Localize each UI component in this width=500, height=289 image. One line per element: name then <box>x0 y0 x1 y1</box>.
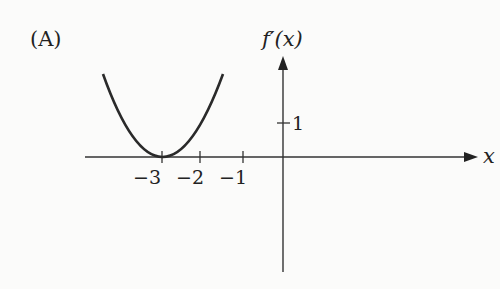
panel-label: (A) <box>30 27 62 51</box>
x-axis-label: x <box>483 144 495 168</box>
x-axis-arrow-icon <box>464 152 478 162</box>
y-tick-label: 1 <box>292 112 304 134</box>
x-tick-label: −1 <box>219 166 247 188</box>
f-prime-curve <box>103 74 223 157</box>
x-tick-label: −2 <box>176 166 204 188</box>
chart-svg: (A) f′(x) x 1 −3 −2 −1 <box>0 0 500 289</box>
y-axis-arrow-icon <box>278 56 288 70</box>
y-axis-label: f′(x) <box>260 27 303 51</box>
x-tick-label: −3 <box>133 166 161 188</box>
chart-figure: (A) f′(x) x 1 −3 −2 −1 <box>0 0 500 289</box>
